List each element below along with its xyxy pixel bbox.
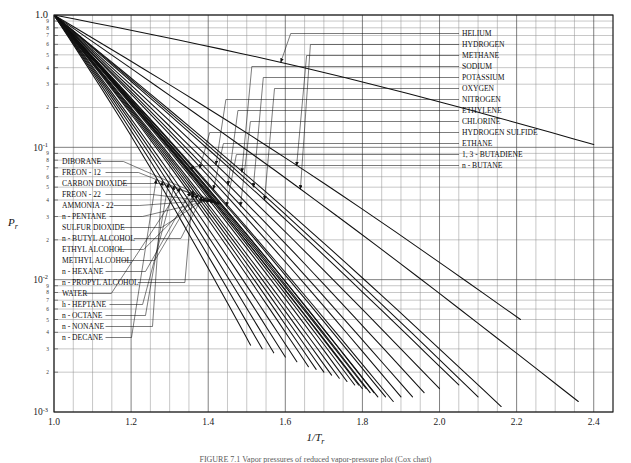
svg-text:3: 3 bbox=[46, 214, 49, 220]
x-axis-title: 1/Tr bbox=[0, 431, 631, 446]
svg-text:1.6: 1.6 bbox=[279, 417, 291, 427]
svg-text:4: 4 bbox=[46, 65, 49, 71]
substance-label: h - HEPTANE bbox=[62, 300, 106, 309]
svg-text:7: 7 bbox=[46, 297, 49, 303]
svg-text:2: 2 bbox=[46, 369, 49, 375]
substance-label: n - NONANE bbox=[62, 322, 105, 331]
substance-label: SULFUR DIOXIDE bbox=[62, 223, 125, 232]
svg-text:6: 6 bbox=[46, 174, 49, 180]
substance-label: n - HEXANE bbox=[62, 267, 104, 276]
substance-label: ETHYLENE bbox=[462, 106, 502, 115]
svg-text:1.4: 1.4 bbox=[202, 417, 214, 427]
figure-caption: FIGURE 7.1 Vapor pressures of reduced va… bbox=[0, 455, 631, 463]
svg-text:2.4: 2.4 bbox=[588, 417, 600, 427]
svg-text:1.2: 1.2 bbox=[125, 417, 137, 427]
svg-text:1.0: 1.0 bbox=[48, 417, 60, 427]
svg-text:3: 3 bbox=[46, 81, 49, 87]
substance-label: 1, 3 - BUTADIENE bbox=[462, 150, 523, 159]
substance-label: POTASSIUM bbox=[462, 73, 505, 82]
substance-label: FREON - 12 bbox=[62, 168, 101, 177]
figure-container: 1.01.21.41.61.82.02.22.4 1.010-110-210-3… bbox=[0, 0, 631, 463]
svg-text:9: 9 bbox=[46, 150, 49, 156]
svg-text:6: 6 bbox=[46, 306, 49, 312]
svg-text:9: 9 bbox=[46, 283, 49, 289]
svg-text:8: 8 bbox=[46, 157, 49, 163]
substance-label: ETHYL ALCOHOL bbox=[62, 245, 125, 254]
svg-text:7: 7 bbox=[46, 165, 49, 171]
svg-text:5: 5 bbox=[46, 317, 49, 323]
substance-label: SODIUM bbox=[462, 62, 492, 71]
substance-label: METHYL ALCOHOL bbox=[62, 256, 131, 265]
substance-label: NITROGEN bbox=[462, 95, 501, 104]
substance-label: n - PENTANE bbox=[62, 212, 106, 221]
svg-text:9: 9 bbox=[46, 18, 49, 24]
substance-label: HYDROGEN bbox=[462, 40, 505, 49]
svg-text:1.8: 1.8 bbox=[356, 417, 368, 427]
substance-label: n - BUTANE bbox=[462, 161, 503, 170]
svg-text:5: 5 bbox=[46, 184, 49, 190]
svg-text:4: 4 bbox=[46, 329, 49, 335]
substance-label: CARBON DIOXIDE bbox=[62, 179, 128, 188]
y-axis-title: Pr bbox=[8, 216, 18, 231]
substance-label: AMMONIA - 22 bbox=[62, 201, 114, 210]
substance-label: OXYGEN bbox=[462, 84, 495, 93]
substance-label: n - PROPYL ALCOHOL bbox=[62, 278, 139, 287]
svg-text:2: 2 bbox=[46, 104, 49, 110]
svg-text:2: 2 bbox=[46, 237, 49, 243]
cox-chart-svg: 1.01.21.41.61.82.02.22.4 1.010-110-210-3… bbox=[0, 0, 631, 463]
svg-text:2.2: 2.2 bbox=[511, 417, 523, 427]
substance-label: CHLORINE bbox=[462, 117, 501, 126]
svg-text:2.0: 2.0 bbox=[434, 417, 446, 427]
svg-text:3: 3 bbox=[46, 346, 49, 352]
svg-text:8: 8 bbox=[46, 25, 49, 31]
substance-label: FREON - 22 bbox=[62, 190, 101, 199]
svg-text:5: 5 bbox=[46, 52, 49, 58]
substance-label: DIBORANE bbox=[62, 157, 102, 166]
substance-label: HELIUM bbox=[462, 29, 492, 38]
svg-text:8: 8 bbox=[46, 289, 49, 295]
substance-label: ETHANE bbox=[462, 139, 493, 148]
svg-text:6: 6 bbox=[46, 41, 49, 47]
substance-label: n - OCTANE bbox=[62, 311, 103, 320]
substance-label: METHANE bbox=[462, 51, 499, 60]
substance-label: n - BUTYL ALCOHOL bbox=[62, 234, 135, 243]
svg-text:7: 7 bbox=[46, 32, 49, 38]
substance-label: HYDROGEN SULFIDE bbox=[462, 128, 538, 137]
substance-label: WATER bbox=[62, 289, 88, 298]
substance-label: n - DECANE bbox=[62, 333, 103, 342]
svg-text:4: 4 bbox=[46, 197, 49, 203]
